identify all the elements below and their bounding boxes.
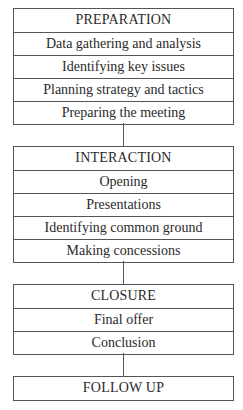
stage-item: Identifying key issues [14, 55, 233, 78]
stage-item: Conclusion [14, 331, 233, 354]
stage-follow-up: FOLLOW UP [13, 376, 234, 401]
stage-title: FOLLOW UP [14, 377, 233, 400]
stage-item: Preparing the meeting [14, 101, 233, 124]
connector-line [123, 123, 124, 146]
stage-item: Making concessions [14, 239, 233, 262]
stage-title: INTERACTION [14, 147, 233, 170]
connector-line [123, 261, 124, 284]
stage-item: Final offer [14, 308, 233, 331]
stage-item: Data gathering and analysis [14, 32, 233, 55]
stage-item: Identifying common ground [14, 216, 233, 239]
stage-preparation: PREPARATION Data gathering and analysis … [13, 8, 234, 125]
stage-title: CLOSURE [14, 285, 233, 308]
stage-interaction: INTERACTION Opening Presentations Identi… [13, 146, 234, 263]
stage-item: Planning strategy and tactics [14, 78, 233, 101]
connector-line [123, 353, 124, 376]
stage-item: Presentations [14, 193, 233, 216]
stage-closure: CLOSURE Final offer Conclusion [13, 284, 234, 355]
stage-item: Opening [14, 170, 233, 193]
stage-title: PREPARATION [14, 9, 233, 32]
